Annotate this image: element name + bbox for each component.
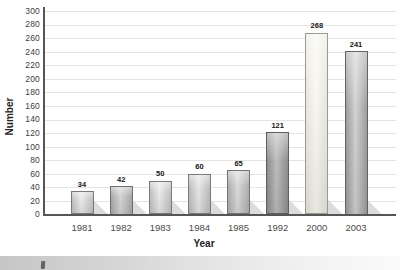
- x-tick-label: 2000: [297, 222, 337, 233]
- y-tick-label: 60: [0, 169, 40, 179]
- bar-value-label: 42: [106, 175, 136, 184]
- gridline: [44, 25, 396, 26]
- gridline: [44, 147, 396, 148]
- bar-1981: [71, 191, 94, 214]
- footer-band: [0, 256, 400, 270]
- y-tick-label: 40: [0, 182, 40, 192]
- y-tick-label: 0: [0, 209, 40, 219]
- gridline: [44, 92, 396, 93]
- x-axis-title: Year: [184, 238, 224, 249]
- y-axis-title: Number: [4, 91, 15, 143]
- bar-1992: [266, 132, 289, 214]
- bar-value-label: 241: [341, 40, 371, 49]
- gridline: [44, 106, 396, 107]
- bar-2003: [345, 51, 368, 215]
- y-tick-label: 80: [0, 155, 40, 165]
- bar-value-label: 65: [224, 159, 254, 168]
- y-axis-line: [43, 7, 45, 216]
- gridline: [44, 120, 396, 121]
- x-tick-label: 1982: [101, 222, 141, 233]
- gridline: [44, 160, 396, 161]
- bar-2000: [305, 33, 328, 215]
- bar-chart-figure: Number Year 0204060801001201401601802002…: [0, 0, 400, 270]
- y-tick-label: 220: [0, 60, 40, 70]
- bar-1985: [227, 170, 250, 214]
- y-tick-label: 280: [0, 19, 40, 29]
- y-tick-label: 240: [0, 47, 40, 57]
- y-tick-label: 200: [0, 74, 40, 84]
- bar-value-label: 60: [184, 162, 214, 171]
- x-axis-line: [43, 214, 397, 216]
- x-tick-label: 1985: [219, 222, 259, 233]
- y-tick-label: 100: [0, 142, 40, 152]
- y-tick-label: 260: [0, 33, 40, 43]
- bar-value-label: 121: [263, 121, 293, 130]
- x-tick-label: 1981: [62, 222, 102, 233]
- bar-1983: [149, 181, 172, 215]
- x-tick-label: 1984: [179, 222, 219, 233]
- gridline: [44, 52, 396, 53]
- gridline: [44, 11, 396, 12]
- gridline: [44, 201, 396, 202]
- x-tick-label: 1983: [140, 222, 180, 233]
- gridline: [44, 79, 396, 80]
- bar-1984: [188, 174, 211, 215]
- bar-1982: [110, 186, 133, 215]
- y-tick-label: 300: [0, 6, 40, 16]
- y-tick-label: 20: [0, 196, 40, 206]
- bar-value-label: 50: [145, 169, 175, 178]
- gridline: [44, 133, 396, 134]
- gridline: [44, 65, 396, 66]
- bar-value-label: 34: [67, 180, 97, 189]
- x-tick-label: 2003: [336, 222, 376, 233]
- bar-value-label: 268: [302, 21, 332, 30]
- cropped-text-fragment: [41, 261, 45, 269]
- x-tick-label: 1992: [258, 222, 298, 233]
- gridline: [44, 174, 396, 175]
